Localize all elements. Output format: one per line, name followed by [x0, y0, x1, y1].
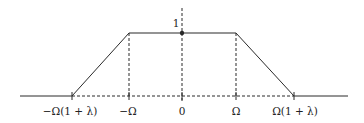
tick-label-omega: Ω — [232, 105, 241, 117]
peak-point — [180, 31, 184, 35]
tick-label-zero: 0 — [179, 105, 186, 117]
peak-label: 1 — [173, 17, 180, 29]
tick-label-neg-omega: −Ω — [119, 105, 137, 117]
falling-edge — [236, 33, 294, 96]
tick-label-neg-omega-1-lambda: −Ω(1 + λ) — [43, 105, 98, 117]
rising-edge — [72, 33, 129, 96]
tick-label-omega-1-lambda: Ω(1 + λ) — [272, 105, 318, 117]
